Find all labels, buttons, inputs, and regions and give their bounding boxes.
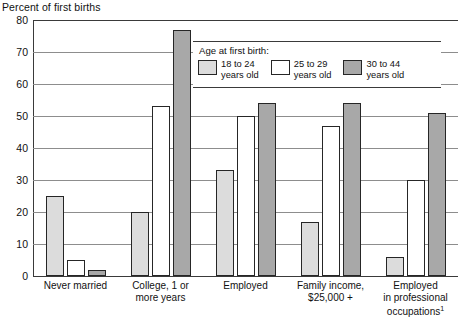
legend-swatch (198, 60, 217, 75)
bar (407, 180, 425, 276)
bar (322, 126, 340, 276)
bar-group-bars (33, 20, 118, 276)
legend-swatch (271, 60, 290, 75)
legend-label: 30 to 44years old (366, 59, 404, 80)
bar-group-bars (118, 20, 203, 276)
y-tick-label-30: 30 (16, 175, 28, 186)
y-tick-label-40: 40 (16, 143, 28, 154)
y-tick-label-60: 60 (16, 79, 28, 90)
y-tick-label-80: 80 (16, 15, 28, 26)
legend-item: 18 to 24years old (198, 59, 259, 80)
bar (386, 257, 404, 276)
chart-legend: Age at first birth: 18 to 24years old25 … (193, 41, 441, 88)
gridline-0 (33, 276, 458, 277)
bar-group (33, 20, 118, 276)
bar (237, 116, 255, 276)
bar (173, 30, 191, 276)
bar (88, 270, 106, 276)
legend-item: 25 to 29years old (271, 59, 332, 80)
bar (343, 103, 361, 276)
legend-title: Age at first birth: (199, 45, 436, 56)
y-tick-label-70: 70 (16, 47, 28, 58)
bar (428, 113, 446, 276)
legend-swatch (343, 60, 362, 75)
bar (216, 170, 234, 276)
bar-chart: Percent of first births 0102030405060708… (0, 0, 467, 321)
y-tick-label-50: 50 (16, 111, 28, 122)
y-tick-label-20: 20 (16, 207, 28, 218)
bar (258, 103, 276, 276)
category-axis-labels: Never marriedCollege, 1 ormore yearsEmpl… (33, 280, 458, 321)
bar (46, 196, 64, 276)
legend-item: 30 to 44years old (343, 59, 404, 80)
bar (152, 106, 170, 276)
bar (301, 222, 319, 276)
category-label: Never married (33, 280, 118, 292)
category-label: Family income,$25,000 + (288, 280, 373, 303)
category-label: Employed (203, 280, 288, 292)
legend-items: 18 to 24years old25 to 29years old30 to … (198, 59, 436, 80)
bar (67, 260, 85, 276)
bar (131, 212, 149, 276)
bar-group (118, 20, 203, 276)
legend-label: 25 to 29years old (294, 59, 332, 80)
category-label: Employedin professionaloccupations1 (373, 280, 458, 318)
legend-label: 18 to 24years old (221, 59, 259, 80)
category-label: College, 1 ormore years (118, 280, 203, 303)
y-tick-label-0: 0 (22, 271, 28, 282)
chart-axis-title: Percent of first births (2, 1, 101, 13)
y-tick-label-10: 10 (16, 239, 28, 250)
